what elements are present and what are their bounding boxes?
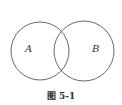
set-b-circle bbox=[54, 21, 114, 81]
set-a-label: A bbox=[24, 43, 32, 54]
figure-caption: 图 5-1 bbox=[0, 89, 122, 102]
set-b-label: B bbox=[91, 43, 99, 54]
set-a-circle bbox=[11, 22, 69, 80]
